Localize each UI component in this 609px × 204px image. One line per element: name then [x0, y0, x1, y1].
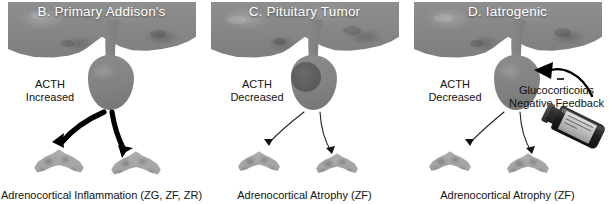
pituitary-bulb: [88, 55, 134, 110]
panel-caption: Adrenocortical Atrophy (ZF): [203, 189, 406, 201]
pituitary-gland-group: [406, 0, 609, 130]
arrow-head-left: [264, 139, 273, 146]
arrow-head-right: [526, 146, 535, 154]
arrow-head-right: [326, 146, 335, 154]
arrow-head-left: [465, 139, 474, 146]
acth-label: ACTH Decreased: [217, 78, 297, 104]
arrow-head-left: [52, 133, 64, 148]
panel-iatrogenic: D. Iatrogenic ACTH Decreased Glucocortic…: [406, 0, 609, 204]
pituitary-gland-group: [203, 0, 406, 130]
acth-label: ACTH Decreased: [414, 78, 496, 104]
acth-label-line2: Increased: [12, 91, 88, 104]
feedback-label-line1: Glucocorticoids: [504, 84, 609, 97]
minus-sign-icon: [557, 78, 564, 80]
pituitary-gland-group: [0, 0, 203, 130]
acth-label-line2: Decreased: [217, 91, 297, 104]
acth-label-line1: ACTH: [217, 78, 297, 91]
acth-label-line1: ACTH: [414, 78, 496, 91]
adrenal-gland-left: [428, 150, 472, 179]
adrenal-gland-right: [506, 152, 550, 181]
acth-label-line1: ACTH: [12, 78, 88, 91]
adrenal-gland-left: [237, 150, 281, 179]
panel-caption: Adrenocortical Inflammation (ZG, ZF, ZR): [0, 189, 203, 201]
acth-label-line2: Decreased: [414, 91, 496, 104]
adrenal-gland-right: [110, 150, 162, 184]
acth-label: ACTH Increased: [12, 78, 88, 104]
panel-caption: Adrenocortical Atrophy (ZF): [406, 189, 609, 201]
panel-primary-addisons: B. Primary Addison's ACTH Increased Adre…: [0, 0, 203, 204]
adrenal-gland-right: [315, 152, 359, 181]
figure-adrenal-insufficiency-panels: B. Primary Addison's ACTH Increased Adre…: [0, 0, 609, 204]
adrenal-gland-left: [33, 148, 85, 182]
panel-pituitary-tumor: C. Pituitary Tumor ACTH Decreased Adreno…: [203, 0, 406, 204]
